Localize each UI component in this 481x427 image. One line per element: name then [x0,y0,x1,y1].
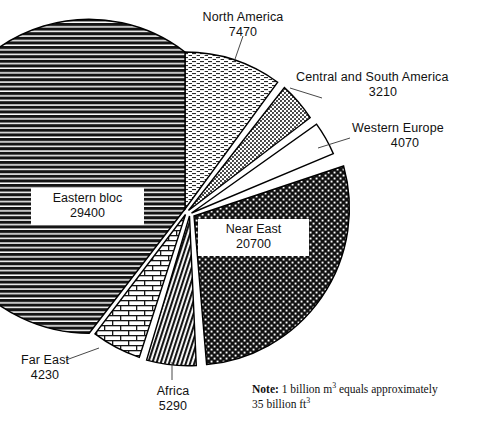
label-central-and-south-america: Central and South America 3210 [296,70,476,99]
leader-north-america [234,36,243,62]
pie-chart: North America 7470 Central and South Ame… [0,0,481,427]
label-north-america-value: 7470 [178,25,308,40]
footnote-prefix: Note: [252,383,279,395]
footnote-sup-2: 3 [306,396,310,405]
label-north-america: North America 7470 [178,10,308,39]
label-eastern-bloc: Eastern bloc 29400 [31,188,144,225]
label-eastern-bloc-name: Eastern bloc [53,191,122,205]
footnote-line-2a: 35 billion ft [252,398,306,410]
label-central-and-south-america-value: 3210 [296,85,470,100]
label-africa-name: Africa [157,384,190,398]
footnote-line-1a: 1 billion m [279,383,332,395]
label-western-europe-value: 4070 [352,136,458,151]
chart-footnote: Note: 1 billion m3 equals approximately … [252,382,472,412]
label-western-europe-name: Western Europe [352,121,444,135]
label-western-europe: Western Europe 4070 [352,121,468,150]
label-north-america-name: North America [203,10,284,24]
footnote-line-2: 35 billion ft3 [252,397,472,412]
label-near-east-name: Near East [226,222,282,236]
label-africa-value: 5290 [140,399,206,414]
label-far-east: Far East 4230 [6,353,84,382]
footnote-line-1: Note: 1 billion m3 equals approximately [252,382,472,397]
label-near-east-value: 20700 [205,237,302,252]
footnote-line-1b: equals approximately [336,383,438,395]
label-africa: Africa 5290 [140,384,206,413]
label-eastern-bloc-value: 29400 [38,206,137,221]
label-far-east-value: 4230 [6,368,84,383]
label-near-east: Near East 20700 [198,219,309,256]
label-far-east-name: Far East [21,353,69,367]
label-central-and-south-america-name: Central and South America [296,70,449,84]
